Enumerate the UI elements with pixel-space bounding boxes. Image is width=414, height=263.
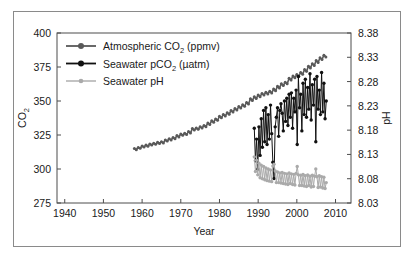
data-point: [256, 173, 259, 176]
data-point: [312, 103, 315, 106]
legend-label-main: Seawater pH: [103, 75, 164, 87]
data-point: [290, 91, 293, 94]
x-tick-label: 1980: [208, 207, 232, 219]
y2-tick-label: 8.23: [358, 100, 379, 112]
data-point: [270, 180, 273, 183]
data-point: [135, 148, 138, 151]
legend-label-unit: (ppmv): [184, 40, 220, 52]
data-point: [282, 84, 285, 87]
data-point: [305, 70, 308, 73]
data-point: [286, 82, 289, 85]
data-point: [201, 127, 204, 130]
chart-canvas: 1940195019601970198019902000201027530032…: [0, 0, 414, 263]
data-point: [268, 137, 271, 140]
data-point: [323, 187, 326, 190]
data-point: [314, 140, 317, 143]
x-tick-label: 1950: [92, 207, 116, 219]
data-point: [239, 107, 242, 110]
data-point: [299, 93, 302, 96]
data-point: [314, 167, 317, 170]
data-point: [257, 125, 260, 128]
series-2: [253, 71, 328, 180]
data-point: [228, 113, 231, 116]
legend-item-2[interactable]: Seawater pCO2 (µatm): [66, 58, 210, 73]
data-point: [177, 135, 180, 138]
data-point: [235, 109, 238, 112]
x-tick-label: 1970: [169, 207, 193, 219]
data-point: [277, 135, 280, 138]
data-point: [263, 140, 266, 143]
y2-tick-label: 8.08: [358, 173, 379, 185]
data-point: [255, 137, 258, 140]
data-point: [315, 75, 318, 78]
legend-label: Seawater pCO2 (µatm): [103, 58, 210, 73]
data-point: [274, 89, 277, 92]
data-point: [320, 58, 323, 61]
data-point: [301, 73, 304, 76]
data-point: [309, 118, 312, 121]
data-point: [255, 159, 258, 162]
data-point: [296, 143, 299, 146]
y2-tick-label: 8.18: [358, 124, 379, 136]
data-point: [189, 132, 192, 135]
data-point: [261, 146, 264, 149]
data-point: [259, 95, 262, 98]
legend: Atmospheric CO2 (ppmv)Seawater pCO2 (µat…: [66, 40, 220, 87]
data-point: [318, 88, 321, 91]
data-point: [316, 107, 319, 110]
data-point: [291, 127, 294, 130]
data-point: [323, 117, 326, 120]
data-point: [302, 113, 305, 116]
data-point: [264, 106, 267, 109]
data-point: [224, 114, 227, 117]
y-tick-label: 350: [33, 95, 51, 107]
data-point: [278, 86, 281, 89]
y2-tick-label: 8.03: [358, 197, 379, 209]
data-point: [139, 147, 142, 150]
x-tick-label: 2000: [285, 207, 309, 219]
data-point: [166, 140, 169, 143]
data-point: [265, 143, 268, 146]
data-point: [232, 111, 235, 114]
y2-tick-label: 8.33: [358, 51, 379, 63]
data-point: [270, 91, 273, 94]
data-point: [313, 78, 316, 81]
data-point: [312, 185, 315, 188]
data-point: [260, 117, 263, 120]
data-point: [255, 97, 258, 100]
data-point: [296, 165, 299, 168]
data-point: [317, 61, 320, 64]
data-point: [253, 155, 256, 158]
data-point: [322, 176, 325, 179]
data-point: [272, 162, 275, 165]
legend-item-1[interactable]: Atmospheric CO2 (ppmv): [66, 40, 220, 55]
data-point: [309, 66, 312, 69]
data-point: [306, 86, 309, 89]
data-point: [185, 133, 188, 136]
legend-marker: [78, 43, 84, 49]
y-axis-title-sub: 2: [22, 108, 31, 112]
data-point: [284, 120, 287, 123]
data-point: [282, 129, 285, 132]
data-point: [262, 94, 265, 97]
data-point: [253, 127, 256, 130]
legend-item-3[interactable]: Seawater pH: [66, 75, 164, 87]
data-point: [279, 102, 282, 105]
data-point: [276, 106, 279, 109]
data-point: [283, 99, 286, 102]
data-point: [216, 119, 219, 122]
y-axis-title-main: CO: [16, 112, 28, 128]
legend-label: Atmospheric CO2 (ppmv): [103, 40, 220, 55]
x-tick-label: 1960: [130, 207, 154, 219]
data-point: [290, 79, 293, 82]
data-point: [325, 99, 328, 102]
data-point: [320, 71, 323, 74]
data-point: [197, 128, 200, 131]
data-point: [300, 129, 303, 132]
data-point: [269, 168, 272, 171]
data-point: [280, 112, 283, 115]
legend-label-main: Atmospheric CO: [103, 40, 180, 52]
y2-axis-title: pH: [380, 111, 392, 124]
data-point: [220, 116, 223, 119]
y2-tick-label: 8.13: [358, 148, 379, 160]
